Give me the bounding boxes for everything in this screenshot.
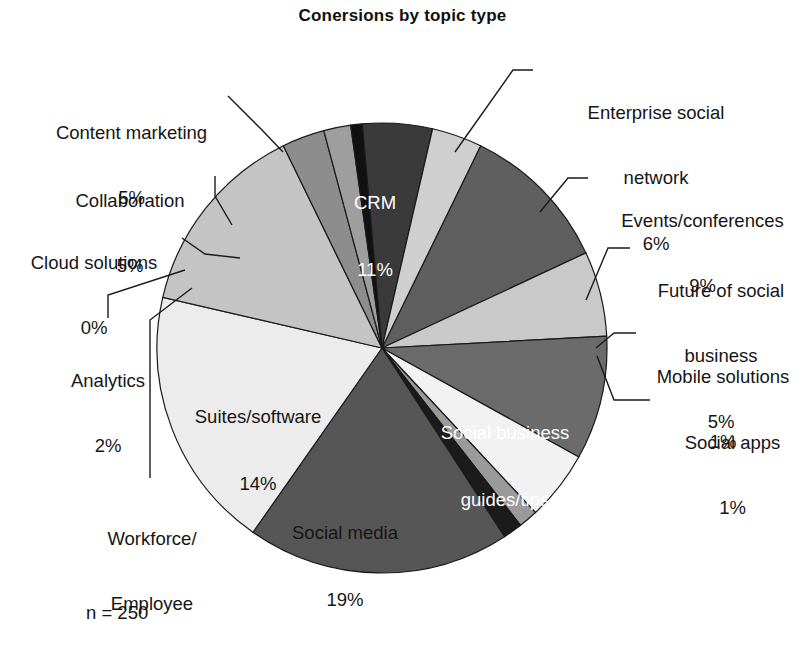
callout-events-name: Events/conferences <box>600 210 805 232</box>
callout-cloud-solutions-name: Cloud solutions <box>4 252 184 274</box>
callout-social-apps-name: Social apps <box>660 432 805 454</box>
slice-label-suites-value: 14% <box>168 473 348 495</box>
slice-label-suites-name: Suites/software <box>168 406 348 428</box>
callout-enterprise-line1: Enterprise social <box>548 102 764 124</box>
slice-label-social-business-guides: Social business guides/tips 19% <box>410 378 600 622</box>
slice-label-suites-software: Suites/software 14% <box>168 362 348 540</box>
callout-social-apps: Social apps 1% <box>660 388 805 563</box>
callout-analytics-name: Analytics <box>38 370 178 392</box>
slice-label-crm: CRM 11% <box>300 148 450 326</box>
callout-mobile-name: Mobile solutions <box>642 366 804 388</box>
callout-analytics-value: 2% <box>38 435 178 457</box>
callout-social-apps-value: 1% <box>660 497 805 519</box>
slice-label-crm-name: CRM <box>300 192 450 214</box>
slice-label-social-media-value: 19% <box>265 589 425 611</box>
slice-label-sbg-value: 19% <box>410 556 600 578</box>
callout-content-marketing-name: Content marketing <box>24 122 239 144</box>
slice-label-crm-value: 11% <box>300 259 450 281</box>
sample-size-note: n = 250 <box>86 602 148 624</box>
slice-label-sbg-line1: Social business <box>410 422 600 444</box>
pie-chart-figure: Conersions by topic type Co <box>0 0 805 655</box>
callout-analytics: Analytics 2% <box>38 326 178 501</box>
callout-future-line1: Future of social <box>638 280 804 302</box>
slice-label-sbg-line2: guides/tips <box>410 489 600 511</box>
